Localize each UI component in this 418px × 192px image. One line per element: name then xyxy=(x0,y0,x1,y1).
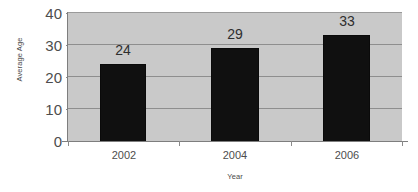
bar-chart: Average Age 40 30 20 10 0 24 29 33 2002 … xyxy=(0,0,418,192)
x-tick-mark-2 xyxy=(291,141,292,146)
x-tick-mark-1 xyxy=(179,141,180,146)
x-axis-line xyxy=(62,141,408,142)
y-axis-line xyxy=(67,12,68,142)
y-tick-label-20: 20 xyxy=(24,70,62,85)
y-axis-title: Average Age xyxy=(15,15,24,105)
y-tick-label-40: 40 xyxy=(24,6,62,21)
x-tick-mark-end xyxy=(402,141,403,146)
x-tick-label-2006: 2006 xyxy=(307,150,387,161)
x-tick-label-2002: 2002 xyxy=(84,150,164,161)
x-tick-mark-start xyxy=(68,141,69,146)
y-tick-label-30: 30 xyxy=(24,38,62,53)
bar-value-2004: 29 xyxy=(196,27,274,41)
bar-value-2006: 33 xyxy=(308,14,386,28)
bar-2002[interactable] xyxy=(100,64,146,142)
y-tick-label-10: 10 xyxy=(24,102,62,117)
x-axis-title: Year xyxy=(68,172,402,181)
bar-value-2002: 24 xyxy=(84,43,162,57)
y-axis-ticks: 40 30 20 10 0 xyxy=(24,0,66,192)
y-tick-label-0: 0 xyxy=(24,134,62,149)
bar-2004[interactable] xyxy=(211,48,259,142)
bar-2006[interactable] xyxy=(323,35,370,142)
x-tick-label-2004: 2004 xyxy=(195,150,275,161)
